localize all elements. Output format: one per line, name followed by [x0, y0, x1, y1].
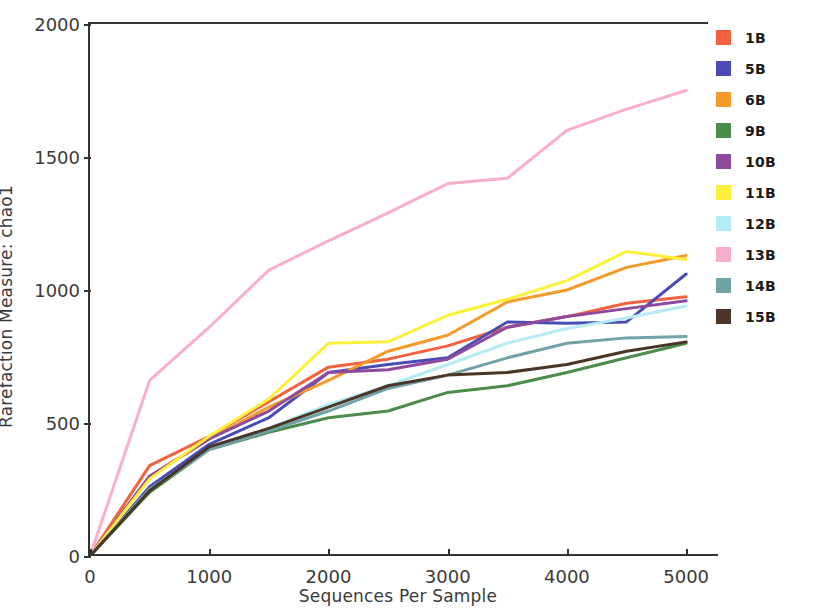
- legend-label-12b: 12B: [745, 216, 776, 232]
- legend-item-10b[interactable]: 10B: [716, 146, 814, 177]
- legend: 1B5B6B9B10B11B12B13B14B15B: [716, 22, 814, 332]
- legend-swatch-15b: [716, 309, 731, 324]
- x-tick-label: 4000: [544, 566, 590, 587]
- legend-swatch-1b: [716, 30, 731, 45]
- legend-item-9b[interactable]: 9B: [716, 115, 814, 146]
- legend-label-11b: 11B: [745, 185, 776, 201]
- x-tick-label: 0: [84, 566, 95, 587]
- legend-label-15b: 15B: [745, 309, 776, 325]
- series-line-11b: [90, 251, 686, 556]
- x-axis-title: Sequences Per Sample: [88, 586, 708, 606]
- series-line-10b: [90, 301, 686, 556]
- y-tick-label: 2000: [34, 14, 80, 35]
- legend-item-1b[interactable]: 1B: [716, 22, 814, 53]
- series-lines: [90, 24, 710, 556]
- legend-swatch-14b: [716, 278, 731, 293]
- x-axis-line: [88, 554, 718, 556]
- legend-label-14b: 14B: [745, 278, 776, 294]
- legend-item-12b[interactable]: 12B: [716, 208, 814, 239]
- series-line-6b: [90, 255, 686, 556]
- legend-item-6b[interactable]: 6B: [716, 84, 814, 115]
- legend-item-11b[interactable]: 11B: [716, 177, 814, 208]
- x-tick-label: 3000: [425, 566, 471, 587]
- series-line-1b: [90, 297, 686, 556]
- legend-label-6b: 6B: [745, 92, 766, 108]
- legend-item-15b[interactable]: 15B: [716, 301, 814, 332]
- y-tick-mark: [84, 556, 91, 558]
- legend-swatch-11b: [716, 185, 731, 200]
- x-tick-label: 1000: [186, 566, 232, 587]
- legend-label-10b: 10B: [745, 154, 776, 170]
- legend-swatch-6b: [716, 92, 731, 107]
- legend-swatch-9b: [716, 123, 731, 138]
- series-line-15b: [90, 342, 686, 556]
- legend-swatch-10b: [716, 154, 731, 169]
- legend-label-13b: 13B: [745, 247, 776, 263]
- y-tick-mark: [84, 290, 91, 292]
- legend-item-14b[interactable]: 14B: [716, 270, 814, 301]
- x-tick-label: 2000: [306, 566, 352, 587]
- plot-area: 0500100015002000 010002000300040005000: [88, 22, 708, 554]
- series-line-12b: [90, 306, 686, 556]
- y-tick-mark: [84, 423, 91, 425]
- legend-swatch-13b: [716, 247, 731, 262]
- legend-label-1b: 1B: [745, 30, 766, 46]
- legend-item-5b[interactable]: 5B: [716, 53, 814, 84]
- series-line-5b: [90, 274, 686, 556]
- y-tick-label: 500: [46, 413, 80, 434]
- legend-label-5b: 5B: [745, 61, 766, 77]
- y-tick-label: 0: [69, 546, 80, 567]
- legend-item-13b[interactable]: 13B: [716, 239, 814, 270]
- y-tick-mark: [84, 157, 91, 159]
- y-tick-label: 1000: [34, 280, 80, 301]
- y-axis-title-text: Rarefaction Measure: chao1: [0, 185, 16, 428]
- legend-label-9b: 9B: [745, 123, 766, 139]
- rarefaction-chart-figure: Rarefaction Measure: chao1 0500100015002…: [0, 0, 818, 613]
- y-tick-mark: [84, 24, 91, 26]
- legend-swatch-5b: [716, 61, 731, 76]
- legend-swatch-12b: [716, 216, 731, 231]
- y-axis-title: Rarefaction Measure: chao1: [0, 0, 40, 613]
- x-tick-label: 5000: [663, 566, 709, 587]
- y-tick-label: 1500: [34, 147, 80, 168]
